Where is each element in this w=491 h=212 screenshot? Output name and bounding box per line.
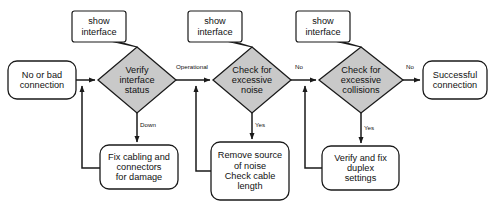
- edge-label-noise-no: No: [295, 63, 303, 70]
- process-verify-duplex-shape: [322, 146, 399, 190]
- edge-label-noise-yes: Yes: [255, 121, 265, 128]
- edge-label-down: Down: [140, 121, 156, 128]
- edge-label-collisions-no: No: [406, 63, 414, 70]
- process-remove-noise-shape: [211, 142, 289, 200]
- edge-process1-feedback-to-decision1: [82, 86, 100, 168]
- callout-show-interface-2-shape: [188, 11, 242, 42]
- process-fix-cabling-shape: [100, 145, 178, 189]
- flowchart-canvas: No or bad connection Verify interface st…: [0, 0, 491, 212]
- decision-check-excessive-noise-shape: [213, 47, 291, 113]
- edge-label-operational: Operational: [176, 63, 208, 70]
- callout-show-interface-3-shape: [296, 11, 350, 42]
- edge-process3-feedback-to-decision3: [305, 86, 322, 168]
- flowchart-vector-layer: [0, 0, 491, 212]
- decision-verify-interface-status-shape: [98, 47, 176, 113]
- edge-label-collisions-yes: Yes: [364, 124, 374, 131]
- callout-show-interface-1-shape: [72, 11, 126, 42]
- terminator-start-shape: [8, 61, 76, 99]
- edge-process2-feedback-to-decision2: [196, 86, 211, 171]
- decision-check-excessive-collisions-shape: [319, 47, 403, 113]
- terminator-end-shape: [423, 61, 487, 99]
